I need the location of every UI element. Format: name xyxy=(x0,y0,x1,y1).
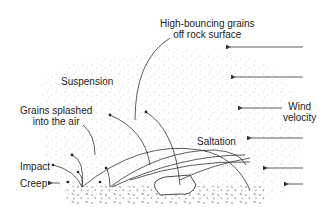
label-high-bouncing-line2: off rock surface xyxy=(160,29,255,40)
label-grains-splashed-line2: into the air xyxy=(20,116,92,127)
label-grains-splashed-line1: Grains splashed xyxy=(20,105,92,116)
label-saltation: Saltation xyxy=(197,136,236,147)
label-high-bouncing-line1: High-bouncing grains xyxy=(160,18,255,29)
label-high-bouncing: High-bouncing grains off rock surface xyxy=(160,18,255,40)
label-wind-line1: Wind xyxy=(283,101,316,112)
rock xyxy=(154,175,196,195)
label-creep: Creep xyxy=(20,178,47,189)
label-wind-velocity: Wind velocity xyxy=(283,101,316,123)
label-grains-splashed: Grains splashed into the air xyxy=(20,105,92,127)
label-impact: Impact xyxy=(20,161,50,172)
label-wind-line2: velocity xyxy=(283,112,316,123)
label-suspension: Suspension xyxy=(61,76,113,87)
